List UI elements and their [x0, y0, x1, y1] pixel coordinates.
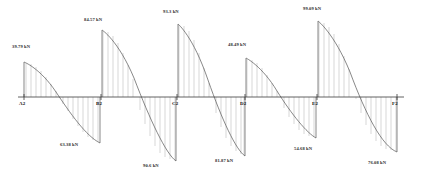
peak-label-e2: 99.09 kN — [303, 6, 321, 11]
hatch-group-span-d2-e2 — [247, 59, 314, 137]
hatch-group-span-a2-b2 — [26, 63, 98, 142]
hatch-group-span-b2-c2 — [103, 31, 175, 160]
shear-force-diagram-figure: 39.79 kN 84.57 kN 93.3 kN 48.49 kN 99.09… — [0, 0, 426, 187]
node-label-c2: C2 — [172, 101, 178, 106]
node-label-e2: E2 — [312, 101, 318, 106]
shear-curve-span-e2-f2 — [318, 21, 397, 152]
hatch-group-span-e2-f2 — [319, 22, 396, 151]
node-label-a2: A2 — [19, 101, 25, 106]
peak-label-b2: 84.57 kN — [84, 17, 102, 22]
shear-curve-span-d2-e2 — [246, 58, 316, 138]
trough-label-e2: 54.68 kN — [294, 146, 312, 151]
trough-label-c2: 90.6 kN — [143, 163, 159, 168]
node-label-d2: D2 — [240, 101, 246, 106]
trough-label-f2: 76.08 kN — [368, 160, 386, 165]
shear-curve-span-a2-b2 — [24, 62, 100, 143]
peak-label-a2: 39.79 kN — [12, 44, 30, 49]
node-label-f2: F2 — [392, 101, 398, 106]
node-label-b2: B2 — [96, 101, 102, 106]
peak-label-c2: 93.3 kN — [163, 9, 179, 14]
trough-label-b2: 63.38 kN — [60, 142, 78, 147]
trough-label-d2: 81.87 kN — [215, 158, 233, 163]
sfd-canvas — [0, 0, 426, 187]
peak-label-d2: 48.49 kN — [228, 42, 246, 47]
